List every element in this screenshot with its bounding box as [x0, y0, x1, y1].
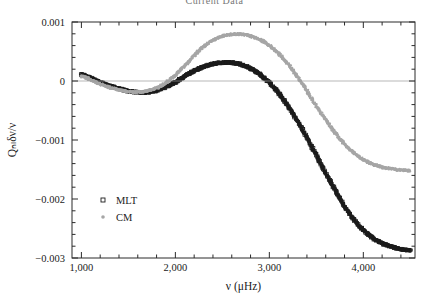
legend-marker-cm: [101, 215, 105, 219]
y-tick-label: −0.003: [35, 253, 65, 264]
y-tick-label: 0.001: [41, 17, 65, 28]
data-point: [195, 52, 197, 54]
x-tick-label: 1,000: [70, 262, 94, 273]
data-point: [409, 170, 411, 172]
y-axis-title: Qₙₗδν/ν: [6, 123, 18, 157]
data-point: [308, 94, 310, 96]
y-tick-label: −0.002: [35, 194, 65, 205]
data-point: [320, 112, 322, 114]
x-tick-label: 2,000: [164, 262, 188, 273]
figure-container: Current Data 1,0002,0003,0004,0000.0010−…: [0, 0, 429, 301]
figure-title: Current Data: [0, 0, 429, 4]
x-axis-title: ν (μHz): [226, 280, 261, 293]
y-tick-label: −0.001: [35, 135, 65, 146]
chart-canvas: 1,0002,0003,0004,0000.0010−0.001−0.002−0…: [0, 0, 429, 301]
series-cm: [80, 32, 412, 173]
series-mlt: [79, 60, 412, 252]
legend-label-mlt: MLT: [116, 195, 138, 206]
x-tick-label: 3,000: [258, 262, 282, 273]
data-point: [208, 43, 210, 45]
data-point: [290, 64, 292, 66]
data-point: [189, 59, 191, 61]
legend-label-cm: CM: [116, 212, 133, 223]
x-tick-label: 4,000: [352, 262, 376, 273]
data-point: [312, 99, 314, 101]
chart-legend: MLTCM: [101, 195, 138, 223]
data-point: [299, 77, 301, 79]
data-point: [142, 91, 144, 93]
legend-marker-mlt: [101, 198, 105, 202]
y-tick-label: 0: [60, 76, 65, 87]
